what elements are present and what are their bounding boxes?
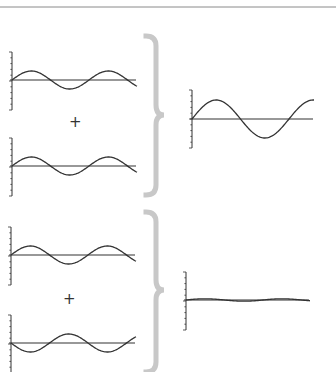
plot-wave-d [8, 315, 136, 372]
plot-wave-b [9, 138, 137, 196]
plot-sum-destructive [183, 272, 310, 330]
interference-diagram [0, 0, 336, 372]
plus-operator-bottom: + [63, 292, 76, 307]
curly-brace-top [146, 36, 164, 195]
plus-operator-top: + [69, 115, 82, 130]
plot-wave-c [8, 227, 136, 285]
plot-wave-a [9, 52, 137, 110]
curly-brace-bottom [146, 212, 164, 372]
plot-sum-constructive [189, 90, 314, 148]
